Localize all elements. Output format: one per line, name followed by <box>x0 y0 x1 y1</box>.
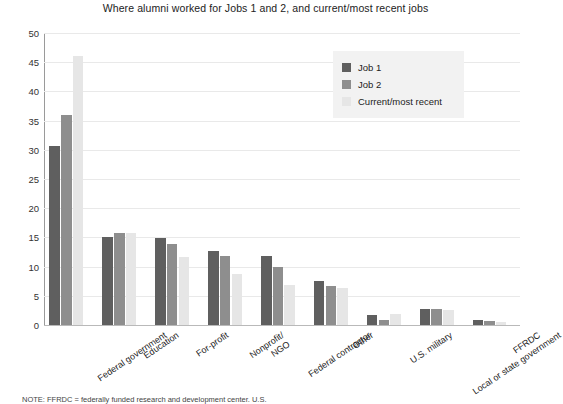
x-tick-label: Local or state government <box>470 330 562 397</box>
bar[interactable] <box>337 288 348 325</box>
y-tick-label: 15 <box>5 232 39 243</box>
bar[interactable] <box>208 251 219 325</box>
bar[interactable] <box>49 146 60 325</box>
bar[interactable] <box>102 237 113 325</box>
bar[interactable] <box>167 244 178 325</box>
bar[interactable] <box>126 233 137 325</box>
y-tick-label: 0 <box>5 320 39 331</box>
bar[interactable] <box>314 281 325 325</box>
y-tick-label: 30 <box>5 144 39 155</box>
bar[interactable] <box>61 115 72 325</box>
y-tick-label: 10 <box>5 261 39 272</box>
bar-group <box>102 33 136 325</box>
bar[interactable] <box>284 285 295 325</box>
bar-group <box>208 33 242 325</box>
y-tick-label: 25 <box>5 174 39 185</box>
legend-label: Job 2 <box>358 79 381 90</box>
bar[interactable] <box>220 256 231 325</box>
chart-title: Where alumni worked for Jobs 1 and 2, an… <box>0 2 531 14</box>
y-axis-tick-labels: 50454035302520151050 <box>0 33 39 325</box>
x-tick-label: For-profit <box>194 330 230 359</box>
bar[interactable] <box>484 321 495 325</box>
y-tick-label: 20 <box>5 203 39 214</box>
x-tick-label: U.S. military <box>408 330 454 366</box>
bar[interactable] <box>155 238 166 325</box>
bar[interactable] <box>73 56 84 325</box>
bar[interactable] <box>473 320 484 325</box>
bar[interactable] <box>379 320 390 325</box>
bar[interactable] <box>390 314 401 325</box>
bar[interactable] <box>326 286 337 325</box>
bar[interactable] <box>261 256 272 325</box>
chart-legend: Job 1Job 2Current/most recent <box>333 51 464 118</box>
bar[interactable] <box>179 257 190 325</box>
x-axis-tick-labels: Federal governmentEducationFor-profitNon… <box>44 326 520 396</box>
bar[interactable] <box>114 233 125 325</box>
legend-item[interactable]: Current/most recent <box>342 93 454 110</box>
bar-group <box>473 33 507 325</box>
legend-item[interactable]: Job 1 <box>342 59 454 76</box>
bar[interactable] <box>232 274 243 325</box>
legend-swatch-icon <box>342 80 351 89</box>
y-tick-label: 35 <box>5 115 39 126</box>
bar[interactable] <box>431 309 442 325</box>
bar[interactable] <box>420 309 431 325</box>
bar[interactable] <box>443 310 454 325</box>
bar-group <box>49 33 83 325</box>
y-tick-label: 50 <box>5 28 39 39</box>
legend-label: Job 1 <box>358 62 381 73</box>
bar[interactable] <box>367 315 378 326</box>
bar-group <box>261 33 295 325</box>
legend-item[interactable]: Job 2 <box>342 76 454 93</box>
chart-footnote: NOTE: FFRDC = federally funded research … <box>22 395 522 404</box>
bar[interactable] <box>273 267 284 325</box>
x-tick-label: Federal government <box>96 330 169 384</box>
legend-label: Current/most recent <box>358 96 442 107</box>
bar-group <box>155 33 189 325</box>
y-tick-label: 45 <box>5 57 39 68</box>
x-tick-label: Other <box>351 330 376 351</box>
x-tick-label: Nonprofit/ NGO <box>248 330 292 369</box>
legend-swatch-icon <box>342 63 351 72</box>
y-tick-label: 40 <box>5 86 39 97</box>
legend-swatch-icon <box>342 97 351 106</box>
y-tick-label: 5 <box>5 290 39 301</box>
bar[interactable] <box>496 322 507 326</box>
